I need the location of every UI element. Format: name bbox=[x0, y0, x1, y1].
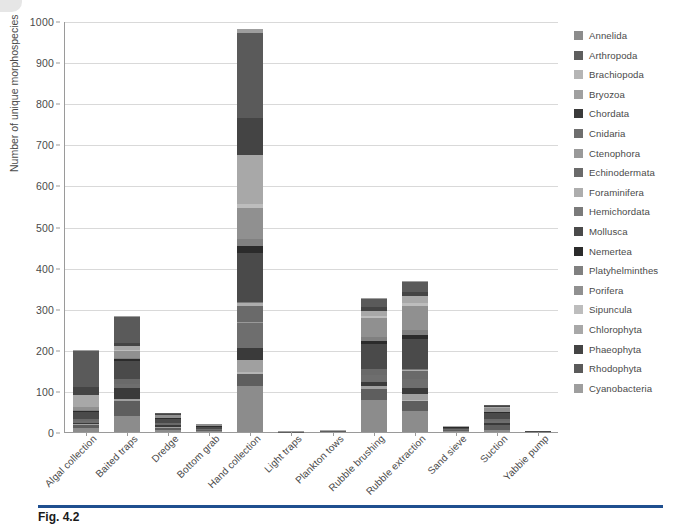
legend-swatch-icon bbox=[574, 31, 583, 40]
y-axis-tickmark bbox=[56, 350, 60, 351]
legend-item[interactable]: Mollusca bbox=[574, 226, 673, 237]
bar-series-container bbox=[65, 22, 558, 432]
y-axis-tick-label: 200 bbox=[36, 345, 54, 357]
legend-item[interactable]: Platyhelminthes bbox=[574, 265, 673, 276]
figure-root: Number of unique morphospecies 010020030… bbox=[0, 0, 673, 524]
legend-item[interactable]: Cnidaria bbox=[574, 128, 673, 139]
x-axis-tick-labels: Algal collectionBaited trapsDredgeBottom… bbox=[64, 433, 558, 503]
legend-swatch-icon bbox=[574, 384, 583, 393]
legend-swatch-icon bbox=[574, 305, 583, 314]
bar-segment bbox=[361, 389, 387, 400]
bar-segment bbox=[114, 317, 140, 342]
bar-segment bbox=[237, 360, 263, 372]
bar-segment bbox=[402, 282, 428, 292]
legend-item[interactable]: Arthropoda bbox=[574, 50, 673, 61]
bar-column[interactable] bbox=[361, 298, 387, 432]
legend-item[interactable]: Cyanobacteria bbox=[574, 383, 673, 394]
legend-item[interactable]: Rhodophyta bbox=[574, 363, 673, 374]
y-axis-tickmark bbox=[56, 145, 60, 146]
y-axis-tick-labels: 01002003004005006007008009001000 bbox=[0, 22, 60, 433]
legend-item[interactable]: Foraminifera bbox=[574, 187, 673, 198]
bar-segment bbox=[361, 375, 387, 382]
caption-rule bbox=[38, 505, 663, 508]
x-axis-tick-label: Light traps bbox=[263, 433, 305, 475]
bar-segment bbox=[114, 361, 140, 379]
legend-item[interactable]: Porifera bbox=[574, 285, 673, 296]
legend-swatch-icon bbox=[574, 90, 583, 99]
legend-swatch-icon bbox=[574, 345, 583, 354]
legend-item[interactable]: Chlorophyta bbox=[574, 324, 673, 335]
bar-segment bbox=[402, 411, 428, 432]
bar-segment bbox=[114, 388, 140, 400]
bar-segment bbox=[402, 306, 428, 330]
y-axis-tick-label: 600 bbox=[36, 180, 54, 192]
legend-swatch-icon bbox=[574, 286, 583, 295]
bar-segment bbox=[237, 386, 263, 432]
legend-label: Arthropoda bbox=[589, 50, 637, 61]
bar-segment bbox=[402, 379, 428, 388]
legend-item[interactable]: Sipuncula bbox=[574, 304, 673, 315]
legend-label: Bryozoa bbox=[589, 89, 625, 100]
bar-segment bbox=[237, 33, 263, 117]
legend-swatch-icon bbox=[574, 129, 583, 138]
y-axis-tickmark bbox=[56, 268, 60, 269]
bar-column[interactable] bbox=[196, 424, 222, 432]
bar-segment bbox=[237, 323, 263, 348]
legend-item[interactable]: Nemertea bbox=[574, 246, 673, 257]
bar-segment bbox=[361, 299, 387, 307]
bar-segment bbox=[402, 371, 428, 378]
bar-segment bbox=[361, 318, 387, 337]
legend-label: Hemichordata bbox=[589, 206, 650, 217]
y-axis-tickmark bbox=[56, 309, 60, 310]
bar-segment bbox=[237, 155, 263, 204]
bar-segment bbox=[73, 387, 99, 395]
legend-label: Nemertea bbox=[589, 246, 632, 257]
y-axis-tick-label: 0 bbox=[48, 427, 54, 439]
legend: AnnelidaArthropodaBrachiopodaBryozoaChor… bbox=[574, 30, 673, 402]
y-axis-tickmark bbox=[56, 391, 60, 392]
figure-caption: Fig. 4.2 bbox=[38, 510, 79, 524]
bar-segment bbox=[73, 351, 99, 387]
bar-segment bbox=[402, 401, 428, 411]
bar-segment bbox=[73, 395, 99, 407]
legend-label: Porifera bbox=[589, 285, 623, 296]
legend-item[interactable]: Bryozoa bbox=[574, 89, 673, 100]
y-axis-tickmark bbox=[56, 22, 60, 23]
legend-item[interactable]: Annelida bbox=[574, 30, 673, 41]
bar-segment bbox=[237, 253, 263, 302]
bar-column[interactable] bbox=[73, 350, 99, 432]
legend-item[interactable]: Phaeophyta bbox=[574, 344, 673, 355]
legend-item[interactable]: Echinodermata bbox=[574, 167, 673, 178]
legend-swatch-icon bbox=[574, 109, 583, 118]
y-axis-tick-label: 1000 bbox=[30, 16, 54, 28]
x-axis-tick-label: Sand sieve bbox=[425, 433, 468, 476]
legend-label: Sipuncula bbox=[589, 304, 632, 315]
bar-segment bbox=[402, 339, 428, 369]
bar-column[interactable] bbox=[114, 316, 140, 432]
legend-item[interactable]: Hemichordata bbox=[574, 206, 673, 217]
legend-swatch-icon bbox=[574, 70, 583, 79]
legend-swatch-icon bbox=[574, 325, 583, 334]
legend-label: Echinodermata bbox=[589, 167, 655, 178]
legend-item[interactable]: Chordata bbox=[574, 108, 673, 119]
y-axis-tick-label: 400 bbox=[36, 263, 54, 275]
bar-column[interactable] bbox=[155, 413, 181, 432]
legend-swatch-icon bbox=[574, 149, 583, 158]
x-axis-tick-label: Baited traps bbox=[93, 433, 139, 479]
y-axis-tick-label: 300 bbox=[36, 304, 54, 316]
bar-segment bbox=[361, 344, 387, 369]
bar-column[interactable] bbox=[237, 29, 263, 432]
bar-segment bbox=[237, 208, 263, 239]
legend-item[interactable]: Ctenophora bbox=[574, 148, 673, 159]
legend-label: Annelida bbox=[589, 30, 627, 41]
legend-label: Ctenophora bbox=[589, 148, 640, 159]
legend-label: Cnidaria bbox=[589, 128, 626, 139]
bar-segment bbox=[237, 374, 263, 386]
y-axis-tick-label: 100 bbox=[36, 386, 54, 398]
legend-item[interactable]: Brachiopoda bbox=[574, 69, 673, 80]
x-axis-tick-label: Dredge bbox=[149, 433, 180, 464]
legend-swatch-icon bbox=[574, 247, 583, 256]
legend-label: Chordata bbox=[589, 108, 629, 119]
bar-column[interactable] bbox=[402, 281, 428, 432]
bar-column[interactable] bbox=[484, 405, 510, 432]
